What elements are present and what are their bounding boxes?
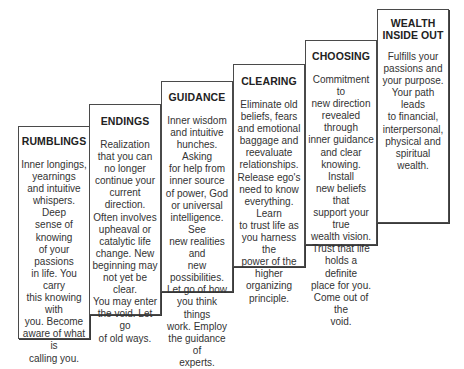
step-guidance: GUIDANCE Inner wisdom and intuitive hunc… bbox=[161, 81, 233, 292]
step-description: Inner longings, yearnings and intuitive … bbox=[21, 159, 87, 365]
step-description: Realization that you can no longer conti… bbox=[92, 139, 158, 345]
step-title: CLEARING bbox=[236, 75, 302, 87]
step-description: Fulfills your passions and your purpose.… bbox=[380, 51, 446, 172]
step-clearing: CLEARING Eliminate old beliefs, fears an… bbox=[233, 64, 305, 267]
step-title: RUMBLINGS bbox=[21, 135, 87, 147]
step-title: ENDINGS bbox=[92, 115, 158, 127]
step-title: GUIDANCE bbox=[164, 91, 230, 103]
step-description: Inner wisdom and intuitive hunches. Aski… bbox=[164, 115, 230, 369]
step-description: Eliminate old beliefs, fears and emotion… bbox=[236, 99, 302, 305]
step-choosing: CHOOSING Commitment to new direction rev… bbox=[305, 40, 377, 245]
step-rumblings: RUMBLINGS Inner longings, yearnings and … bbox=[18, 126, 90, 339]
step-endings: ENDINGS Realization that you can no long… bbox=[89, 104, 161, 315]
step-title: CHOOSING bbox=[308, 50, 374, 62]
step-title: WEALTH INSIDE OUT bbox=[380, 17, 446, 41]
step-description: Commitment to new direction revealed thr… bbox=[308, 74, 374, 328]
step-wealth-inside-out: WEALTH INSIDE OUT Fulfills your passions… bbox=[377, 9, 449, 223]
